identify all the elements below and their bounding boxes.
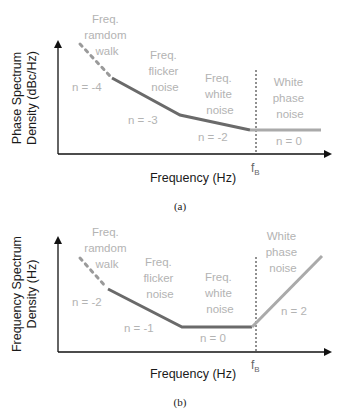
slope-label-n-minus-4: n = -4 [72,81,102,93]
region-label-random-walk: Freq. ramdom walk [84,13,129,57]
slope-label-n-minus-3: n = -3 [128,114,158,126]
slope-label-n-minus-2: n = -2 [72,296,102,308]
region-label-white-phase: White phase noise [273,76,308,120]
region-label-white: Freq. white noise [204,271,235,315]
y-axis-label-line2: Density (Hz) [25,260,39,329]
panel-caption-a: (a) [174,200,187,213]
slope-label-n-minus-1: n = -1 [124,322,154,334]
region-label-white: Freq. white noise [204,72,235,116]
slope-label-n-0: n = 0 [276,135,302,147]
slope-label-n-2: n = 2 [281,305,307,317]
panel-a: fB Freq. ramdom walk Freq. flicker noise… [10,13,330,213]
slope-label-n-0: n = 0 [200,332,226,344]
fb-label: fB [251,358,260,374]
y-axis-label-line1: Frequency Spectrum [10,236,24,352]
x-axis-label: Frequency (Hz) [150,367,236,381]
y-axis-label-line2: Density (dBc/Hz) [25,51,39,145]
slope-label-n-minus-2: n = -2 [198,131,228,143]
y-axis-label-line1: Phase Spectrum [10,52,24,144]
panel-caption-b: (b) [174,396,187,409]
region-label-random-walk: Freq. ramdom walk [84,226,129,270]
region-label-flicker: Freq. flicker noise [148,49,181,93]
noise-diagrams: fB Freq. ramdom walk Freq. flicker noise… [0,0,345,416]
panel-b: fB Freq. ramdom walk Freq. flicker noise… [10,226,330,409]
x-axis-label: Frequency (Hz) [150,171,236,185]
fb-label: fB [251,161,260,177]
region-label-flicker: Freq. flicker noise [143,256,176,300]
region-label-white-phase: White phase noise [266,230,301,274]
